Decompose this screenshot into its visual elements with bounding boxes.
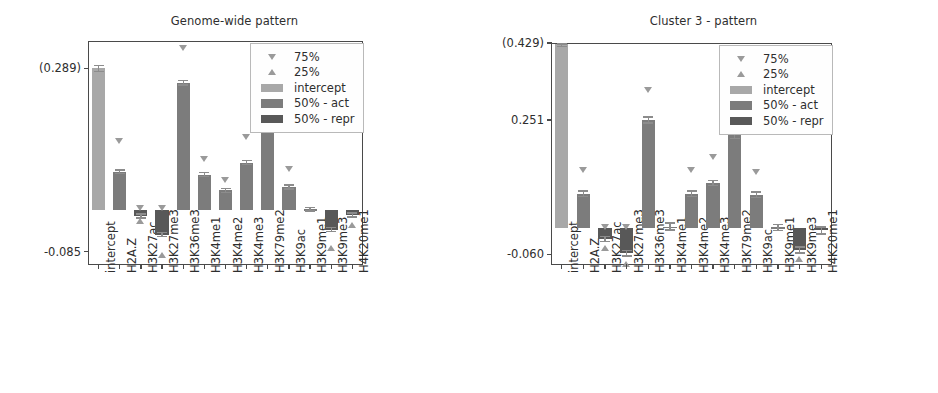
x-axis-tick-mark [98, 264, 99, 269]
x-axis-tick-label: H3K4me2 [231, 217, 245, 273]
quantile-75-marker [158, 205, 166, 211]
quantile-25-marker [795, 256, 803, 262]
error-bar-cap [94, 71, 104, 72]
x-axis-tick-mark [204, 264, 205, 269]
error-bar-cap [665, 229, 675, 230]
legend-label: 75% [763, 52, 789, 66]
error-bar-cap [708, 180, 718, 181]
y-axis-tick-mark [84, 251, 89, 252]
error-bar-cap [687, 190, 697, 191]
error-bar-cap [136, 213, 146, 214]
bar [198, 175, 211, 210]
bar [750, 195, 763, 229]
error-bar-cap [305, 210, 315, 211]
x-axis-tick-label: H3K36me3 [653, 209, 667, 273]
error-bar-cap [773, 224, 783, 225]
error-bar-cap [622, 250, 632, 251]
quantile-75-marker [709, 154, 717, 160]
legend-row[interactable]: 75% [726, 51, 824, 67]
error-bar-cap [622, 255, 632, 256]
error-bar-cap [199, 176, 209, 177]
color-swatch-icon [261, 115, 283, 124]
error-bar-cap [326, 227, 336, 228]
bar [113, 172, 126, 210]
chart-panel-left: Genome-wide pattern(0.289)-0.085intercep… [0, 0, 469, 393]
error-bar-cap [347, 212, 357, 213]
legend-row[interactable]: 25% [257, 65, 355, 81]
legend-key-triangle-down [257, 54, 287, 60]
quantile-25-marker [327, 245, 335, 251]
chart-legend: 75%25%intercept50% - act50% - repr [719, 45, 833, 135]
bar [555, 44, 568, 228]
x-axis-tick-mark [183, 264, 184, 269]
error-bar-cap [751, 191, 761, 192]
bar [577, 194, 590, 229]
error-bar-cap [94, 65, 104, 66]
legend-key-swatch [257, 99, 287, 108]
error-bar-cap [578, 196, 588, 197]
color-swatch-icon [261, 99, 283, 108]
legend-key-swatch [257, 115, 287, 124]
bar [177, 83, 190, 210]
x-axis-tick-mark [225, 264, 226, 269]
error-bar-cap [600, 241, 610, 242]
x-axis-tick-mark [669, 264, 670, 269]
x-axis-tick-mark [352, 264, 353, 269]
error-bar-cap [643, 122, 653, 123]
color-swatch-icon [730, 117, 752, 126]
x-axis-tick-mark [246, 264, 247, 269]
legend-row[interactable]: 50% - act [257, 96, 355, 112]
legend-row[interactable]: 75% [257, 49, 355, 65]
error-bar-cap [326, 231, 336, 232]
error-bar-cap [816, 226, 826, 227]
triangle-down-icon [268, 54, 276, 60]
legend-row[interactable]: 50% - act [726, 98, 824, 114]
x-axis-tick-mark [331, 264, 332, 269]
x-axis-tick-mark [777, 264, 778, 269]
x-axis-tick-mark [161, 264, 162, 269]
error-bar-cap [773, 230, 783, 231]
error-bar-cap [730, 138, 740, 139]
y-axis-tick-label: -0.085 [44, 245, 81, 259]
x-axis-tick-label: H3K4me3 [252, 217, 266, 273]
error-bar-cap [157, 232, 167, 233]
legend-label: 50% - repr [763, 114, 824, 128]
y-axis-tick-mark [547, 42, 552, 43]
legend-label: intercept [763, 83, 815, 97]
legend-key-swatch [257, 84, 287, 93]
x-axis-tick-label: H3K9ac [294, 229, 308, 273]
bar [240, 163, 253, 211]
y-axis-tick-mark [547, 119, 552, 120]
quantile-75-marker [136, 205, 144, 211]
error-bar-cap [115, 173, 125, 174]
x-axis-tick-mark [583, 264, 584, 269]
x-axis-tick-label: H4K20me1 [357, 209, 371, 273]
bar [282, 187, 295, 210]
quantile-25-marker [348, 222, 356, 228]
chart-legend: 75%25%intercept50% - act50% - repr [250, 43, 364, 133]
figure-canvas: Genome-wide pattern(0.289)-0.085intercep… [0, 0, 938, 393]
chart-panel-right: Cluster 3 - pattern(0.429)0.251-0.060int… [469, 0, 938, 393]
legend-row[interactable]: intercept [726, 82, 824, 98]
triangle-down-icon [737, 56, 745, 62]
x-axis-tick-mark [561, 264, 562, 269]
y-axis-tick-label: 0.251 [511, 113, 544, 127]
error-bar-cap [284, 184, 294, 185]
error-bar-cap [178, 84, 188, 85]
x-axis-tick-label: H4K20me1 [826, 209, 840, 273]
y-axis-tick-mark [84, 68, 89, 69]
color-swatch-icon [261, 84, 283, 93]
quantile-75-marker [601, 224, 609, 230]
bar [219, 190, 232, 210]
error-bar-cap [795, 252, 805, 253]
quantile-25-marker [601, 245, 609, 251]
legend-row[interactable]: 50% - repr [726, 113, 824, 129]
x-axis-tick-mark [734, 264, 735, 269]
error-bar-cap [687, 196, 697, 197]
legend-label: 50% - act [763, 98, 818, 112]
error-bar-cap [178, 80, 188, 81]
color-swatch-icon [730, 101, 752, 110]
legend-row[interactable]: 50% - repr [257, 111, 355, 127]
legend-row[interactable]: 25% [726, 67, 824, 83]
legend-row[interactable]: intercept [257, 80, 355, 96]
